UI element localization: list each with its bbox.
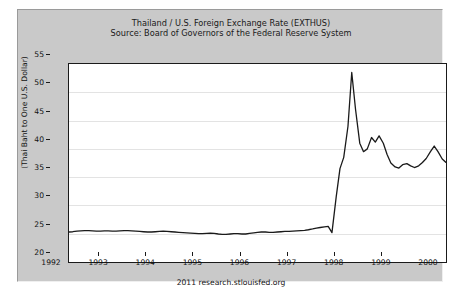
x-axis-label: 1992 <box>31 258 71 267</box>
x-axis-tick <box>287 252 288 256</box>
title-block: Thailand / U.S. Foreign Exchange Rate (E… <box>18 18 444 38</box>
chart-subtitle: Source: Board of Governors of the Federa… <box>18 28 444 38</box>
y-axis-tick <box>46 82 50 83</box>
chart-panel: Thailand / U.S. Foreign Exchange Rate (E… <box>17 9 443 282</box>
x-axis-label: 2000 <box>408 258 448 267</box>
x-axis-tick <box>334 252 335 256</box>
x-axis-tick <box>98 252 99 256</box>
x-axis-label: 1999 <box>361 258 401 267</box>
y-axis-label: 20 <box>4 248 44 257</box>
y-axis-tick <box>46 167 50 168</box>
y-axis-tick <box>46 139 50 140</box>
series-path <box>69 72 446 234</box>
x-axis-label: 1996 <box>220 258 260 267</box>
x-axis-label: 1997 <box>267 258 307 267</box>
y-axis-label: 40 <box>4 135 44 144</box>
x-axis-label: 1994 <box>125 258 165 267</box>
x-axis-tick <box>381 252 382 256</box>
y-axis-tick <box>46 224 50 225</box>
series-line-exthus <box>69 64 446 262</box>
y-axis-label: 50 <box>4 78 44 87</box>
x-axis-label: 1993 <box>78 258 118 267</box>
y-axis-tick <box>46 195 50 196</box>
chart-page: Thailand / U.S. Foreign Exchange Rate (E… <box>0 0 460 294</box>
y-axis-label: 45 <box>4 107 44 116</box>
y-axis-tick <box>46 54 50 55</box>
x-axis-tick <box>192 252 193 256</box>
y-axis-tick <box>46 252 50 253</box>
chart-footer: 2011 research.stlouisfed.org <box>18 278 444 287</box>
plot-area <box>68 63 447 263</box>
y-axis-label: 55 <box>4 50 44 59</box>
y-axis-tick <box>46 111 50 112</box>
y-axis-label: 25 <box>4 220 44 229</box>
y-axis-label: 35 <box>4 163 44 172</box>
x-axis-label: 1995 <box>172 258 212 267</box>
x-axis-tick <box>240 252 241 256</box>
y-axis-label: 30 <box>4 191 44 200</box>
x-axis-tick <box>145 252 146 256</box>
chart-title: Thailand / U.S. Foreign Exchange Rate (E… <box>18 18 444 28</box>
x-axis-label: 1998 <box>314 258 354 267</box>
